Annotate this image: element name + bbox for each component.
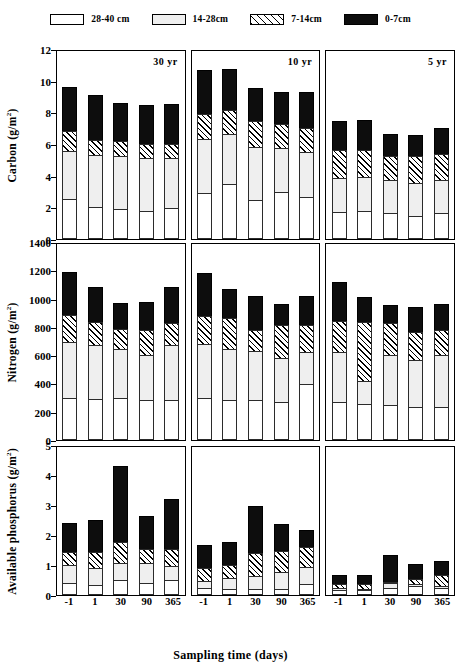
bar[interactable]	[113, 103, 128, 239]
bar-segment-d3	[274, 524, 289, 552]
bar-segment-d3	[408, 564, 423, 581]
bar[interactable]	[383, 134, 398, 239]
bar-segment-d3	[62, 272, 77, 316]
bar[interactable]	[383, 555, 398, 595]
bar[interactable]	[88, 95, 103, 239]
bar[interactable]	[408, 564, 423, 595]
bar[interactable]	[332, 121, 347, 239]
y-tick-label: 800	[35, 322, 52, 334]
bar[interactable]	[222, 542, 237, 595]
bar-segment-d2	[113, 542, 128, 564]
bar-segment-d1	[434, 180, 449, 214]
bar-segment-d2	[408, 332, 423, 361]
bar-segment-d1	[274, 358, 289, 403]
bar-segment-d0	[248, 589, 263, 595]
bar-segment-d1	[383, 180, 398, 214]
bar-segment-d3	[113, 103, 128, 142]
bar[interactable]	[299, 92, 314, 239]
y-tick-label: 600	[35, 350, 52, 362]
bar[interactable]	[197, 273, 212, 440]
bar-segment-d1	[62, 342, 77, 399]
bar[interactable]	[222, 69, 237, 239]
bar-segment-d2	[139, 330, 154, 357]
bar[interactable]	[434, 561, 449, 595]
bar[interactable]	[357, 575, 372, 595]
bar[interactable]	[274, 524, 289, 595]
bar[interactable]	[248, 506, 263, 595]
bar-segment-d0	[274, 402, 289, 440]
bar-segment-d3	[434, 304, 449, 332]
bar[interactable]	[197, 545, 212, 595]
bar[interactable]	[139, 516, 154, 595]
bar[interactable]	[113, 466, 128, 595]
bar-segment-d2	[62, 131, 77, 152]
bar-segment-d2	[62, 315, 77, 343]
bar[interactable]	[357, 297, 372, 440]
bar-segment-d1	[62, 151, 77, 200]
bar-segment-d0	[357, 211, 372, 240]
x-tick-label: 1	[87, 596, 102, 607]
chart-legend: 28-40 cm14-28cm7-14cm0-7cm	[0, 8, 461, 30]
bar-segment-d3	[222, 69, 237, 112]
x-tick-label: -1	[196, 596, 211, 607]
bar[interactable]	[332, 575, 347, 595]
bar[interactable]	[434, 304, 449, 440]
bar[interactable]	[62, 87, 77, 239]
bar-group-10-yr: 10 yr	[191, 50, 321, 240]
bar-segment-d3	[434, 561, 449, 577]
y-axis-label-nitrogen: Nitrogen (g/m2)	[2, 243, 20, 441]
bar-segment-d1	[88, 568, 103, 586]
bar[interactable]	[248, 88, 263, 239]
bar-segment-d3	[248, 296, 263, 331]
bar[interactable]	[274, 304, 289, 440]
bar-segment-d1	[332, 352, 347, 403]
legend-label-d1: 14-28cm	[193, 14, 229, 24]
bar[interactable]	[164, 287, 179, 440]
bar-segment-d2	[357, 322, 372, 382]
bar-segment-d2	[357, 150, 372, 178]
legend-label-d3: 0-7cm	[385, 14, 411, 24]
bar-segment-d2	[62, 552, 77, 566]
bar[interactable]	[408, 135, 423, 239]
bar[interactable]	[164, 499, 179, 595]
bar-segment-d0	[197, 588, 212, 595]
bar[interactable]	[248, 296, 263, 440]
y-axis-carbon: 024681012	[22, 50, 56, 240]
bar[interactable]	[164, 104, 179, 239]
bar[interactable]	[62, 272, 77, 440]
bar[interactable]	[88, 287, 103, 440]
bar[interactable]	[197, 70, 212, 239]
bar[interactable]	[299, 296, 314, 440]
x-tick-label: 1	[222, 596, 237, 607]
bar[interactable]	[113, 303, 128, 440]
bar-segment-d2	[408, 156, 423, 184]
plot-area-carbon: 30 yr10 yr5 yr	[56, 50, 455, 240]
bar[interactable]	[222, 289, 237, 440]
bar-group-5-yr	[325, 243, 455, 441]
bar-segment-d1	[164, 158, 179, 209]
bar[interactable]	[274, 92, 289, 239]
bar[interactable]	[332, 282, 347, 440]
x-tick-label: -1	[61, 596, 76, 607]
bar[interactable]	[299, 530, 314, 595]
bar[interactable]	[408, 307, 423, 440]
bar[interactable]	[357, 120, 372, 239]
bar-segment-d2	[164, 549, 179, 567]
legend-swatch-d0	[50, 14, 84, 25]
x-tick-row: -113090365-113090365-113090365	[56, 596, 455, 612]
bar-segment-d3	[113, 466, 128, 543]
bar-segment-d3	[332, 121, 347, 151]
bar-segment-d0	[434, 588, 449, 596]
bar-segment-d1	[113, 156, 128, 210]
bar-segment-d0	[408, 586, 423, 595]
bar[interactable]	[434, 128, 449, 239]
bar-segment-d1	[197, 139, 212, 194]
bar[interactable]	[383, 305, 398, 440]
bar-segment-d0	[113, 580, 128, 595]
bar[interactable]	[139, 105, 154, 239]
bar-segment-d2	[383, 156, 398, 181]
bar[interactable]	[88, 520, 103, 595]
bar-segment-d3	[62, 87, 77, 132]
bar[interactable]	[62, 523, 77, 595]
bar[interactable]	[139, 302, 154, 440]
